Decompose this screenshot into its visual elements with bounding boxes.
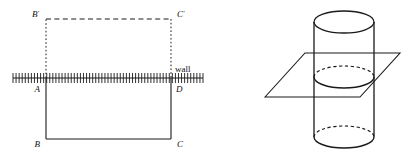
label-c: C: [177, 139, 184, 149]
label-a: A: [34, 84, 41, 94]
label-d: D: [175, 84, 183, 94]
geometry-figure-canvas: B' C' A D B C wall: [0, 0, 413, 158]
label-wall: wall: [175, 64, 191, 74]
label-b: B: [35, 139, 41, 149]
